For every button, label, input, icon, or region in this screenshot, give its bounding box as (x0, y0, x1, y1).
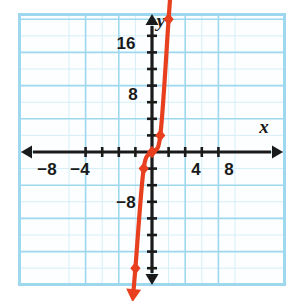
x-tick-label: 4 (191, 160, 201, 179)
coordinate-graph-figure: −8−448 168−8 x y (0, 0, 304, 301)
x-tick-label: −4 (70, 160, 90, 179)
y-axis-label: y (155, 10, 166, 31)
y-tick-label: −8 (116, 193, 135, 212)
x-tick-label: −8 (37, 160, 56, 179)
x-axis-label: x (258, 116, 269, 137)
graph-svg: −8−448 168−8 x y (0, 0, 304, 301)
y-tick-label: 16 (117, 34, 136, 53)
x-tick-label: 8 (224, 160, 233, 179)
y-tick-label: 8 (128, 85, 137, 104)
